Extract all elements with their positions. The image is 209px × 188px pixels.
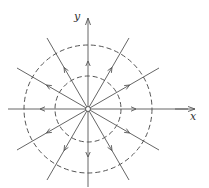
radial-field-figure — [0, 0, 209, 188]
diagram-canvas: y x — [0, 0, 209, 188]
y-axis-label: y — [74, 10, 80, 23]
x-axis-label: x — [190, 110, 196, 123]
origin-marker — [86, 107, 91, 112]
